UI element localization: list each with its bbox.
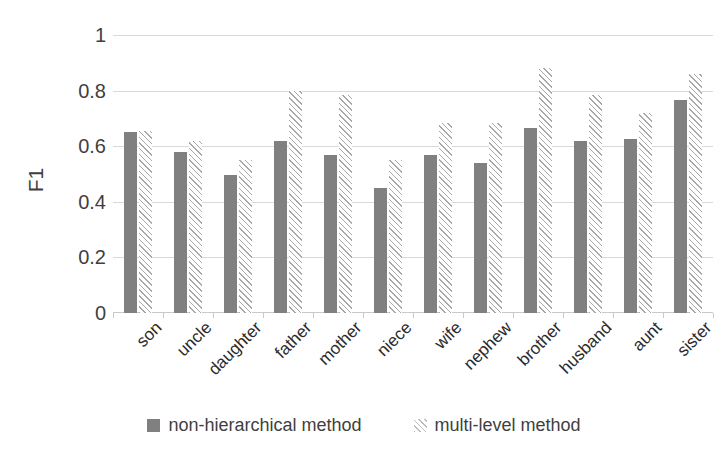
bar-group bbox=[613, 35, 663, 313]
legend-item-non-hierarchical[interactable]: non-hierarchical method bbox=[147, 415, 361, 436]
x-axis-category-label: aunt bbox=[629, 318, 667, 356]
hatched-swatch-icon bbox=[414, 419, 427, 432]
bar[interactable] bbox=[224, 175, 237, 313]
bar[interactable] bbox=[124, 132, 137, 313]
x-axis-tick-mark bbox=[363, 313, 364, 318]
x-axis-tick-mark bbox=[563, 313, 564, 318]
x-axis-category-label: uncle bbox=[173, 318, 216, 361]
bar[interactable] bbox=[139, 131, 152, 313]
bar-group bbox=[663, 35, 713, 313]
legend-label-multi-level: multi-level method bbox=[435, 415, 581, 436]
bar[interactable] bbox=[474, 163, 487, 313]
x-axis-category-label: sister bbox=[673, 318, 716, 361]
bar[interactable] bbox=[489, 123, 502, 313]
bar[interactable] bbox=[424, 155, 437, 313]
bar[interactable] bbox=[539, 68, 552, 313]
bar[interactable] bbox=[624, 139, 637, 313]
bar-group bbox=[563, 35, 613, 313]
chart-legend: non-hierarchical method multi-level meth… bbox=[0, 408, 728, 442]
bar-group bbox=[113, 35, 163, 313]
y-tick-label: 1 bbox=[52, 24, 106, 46]
x-axis-category-label: wife bbox=[431, 318, 467, 354]
y-tick-label: 0.4 bbox=[52, 191, 106, 213]
x-axis-category-label: son bbox=[133, 318, 167, 352]
x-axis-tick-mark bbox=[613, 313, 614, 318]
bar-group bbox=[313, 35, 363, 313]
bar-group bbox=[513, 35, 563, 313]
x-axis-category-labels: sonuncledaughterfathermotherniecewifenep… bbox=[0, 318, 728, 403]
bar[interactable] bbox=[574, 141, 587, 313]
f1-bar-chart: F1 00.20.40.60.81 sonuncledaughterfather… bbox=[0, 0, 728, 458]
x-axis-category-label: niece bbox=[373, 318, 416, 361]
bar[interactable] bbox=[589, 95, 602, 313]
x-axis-category-label: daughter bbox=[205, 318, 267, 380]
bar[interactable] bbox=[639, 113, 652, 313]
x-axis-tick-mark bbox=[513, 313, 514, 318]
y-tick-label: 0.8 bbox=[52, 80, 106, 102]
legend-item-multi-level[interactable]: multi-level method bbox=[414, 415, 581, 436]
bar[interactable] bbox=[689, 74, 702, 313]
y-axis-tick-labels: 00.20.40.60.81 bbox=[52, 24, 106, 314]
solid-swatch-icon bbox=[147, 419, 160, 432]
bar-group bbox=[263, 35, 313, 313]
bar[interactable] bbox=[339, 95, 352, 313]
bar[interactable] bbox=[274, 141, 287, 313]
x-axis-tick-mark bbox=[313, 313, 314, 318]
x-axis-tick-mark bbox=[113, 313, 114, 318]
bar[interactable] bbox=[239, 160, 252, 313]
x-axis-category-label: mother bbox=[315, 318, 367, 370]
x-axis-tick-mark bbox=[263, 313, 264, 318]
x-axis-tick-mark bbox=[213, 313, 214, 318]
plot-area bbox=[113, 35, 713, 313]
x-axis-tick-mark bbox=[413, 313, 414, 318]
bar-group bbox=[463, 35, 513, 313]
bar[interactable] bbox=[174, 152, 187, 313]
bar-group bbox=[213, 35, 263, 313]
bar[interactable] bbox=[389, 160, 402, 313]
bar[interactable] bbox=[189, 141, 202, 313]
bar[interactable] bbox=[524, 128, 537, 313]
x-axis-tick-mark bbox=[713, 313, 714, 318]
y-tick-label: 0.6 bbox=[52, 135, 106, 157]
bar[interactable] bbox=[324, 155, 337, 313]
x-axis-tick-mark bbox=[463, 313, 464, 318]
bar[interactable] bbox=[289, 91, 302, 313]
bar[interactable] bbox=[674, 100, 687, 313]
bar[interactable] bbox=[439, 123, 452, 313]
bar-group bbox=[413, 35, 463, 313]
x-axis-tick-mark bbox=[163, 313, 164, 318]
bar-group bbox=[163, 35, 213, 313]
x-axis-category-label: nephew bbox=[460, 318, 516, 374]
x-axis-tick-mark bbox=[663, 313, 664, 318]
y-tick-label: 0.2 bbox=[52, 246, 106, 268]
x-axis-category-label: father bbox=[271, 318, 316, 363]
bar-group bbox=[363, 35, 413, 313]
legend-label-non-hierarchical: non-hierarchical method bbox=[168, 415, 361, 436]
bar[interactable] bbox=[374, 188, 387, 313]
x-axis-category-label: husband bbox=[556, 318, 616, 378]
